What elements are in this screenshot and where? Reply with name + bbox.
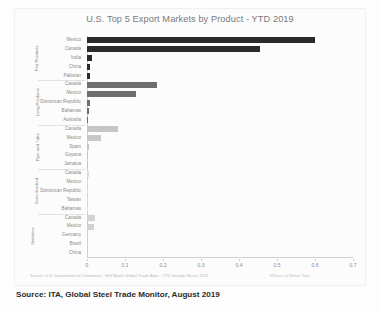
bar [87, 135, 101, 141]
bar [87, 250, 88, 256]
y-tick-label: China [0, 249, 84, 258]
y-tick-label: Brazil [0, 240, 84, 249]
bar [87, 171, 89, 177]
x-tick-mark [87, 259, 88, 261]
x-tick-mark [315, 259, 316, 261]
x-tick-label: 0.1 [122, 262, 129, 268]
y-tick-label: Canada [0, 169, 84, 178]
x-tick-label: 0.2 [160, 262, 167, 268]
y-tick-label: Pakistan [0, 72, 84, 81]
x-tick-mark [201, 259, 202, 261]
bar [87, 179, 88, 185]
bar-row [87, 107, 353, 116]
bar [87, 215, 95, 221]
chart-title: U.S. Top 5 Export Markets by Product - Y… [14, 14, 366, 24]
y-tick-label: Australia [0, 116, 84, 125]
bar [87, 144, 89, 150]
bar-row [87, 134, 353, 143]
bar-row [87, 143, 353, 152]
plot-area [87, 36, 353, 258]
chart-units-note: Millions of Metric Tons [270, 273, 310, 278]
bar-row [87, 36, 353, 45]
bar-row [87, 116, 353, 125]
bar-row [87, 54, 353, 63]
bar-row [87, 89, 353, 98]
y-tick-label: Mexico [0, 178, 84, 187]
figure-caption: Source: ITA, Global Steel Trade Monitor,… [16, 290, 220, 299]
x-tick-label: 0.7 [350, 262, 357, 268]
y-tick-label: Jamaica [0, 160, 84, 169]
x-tick-label: 0.3 [198, 262, 205, 268]
y-tick-label: Canada [0, 214, 84, 223]
x-tick-mark [277, 259, 278, 261]
y-tick-label: Mexico [0, 222, 84, 231]
bar-row [87, 249, 353, 258]
x-tick-mark [239, 259, 240, 261]
x-tick-label: 0.6 [312, 262, 319, 268]
y-tick-label: Bahamas [0, 107, 84, 116]
bar [87, 73, 90, 79]
bar-row [87, 196, 353, 205]
x-tick-mark [125, 259, 126, 261]
bar [87, 206, 88, 212]
x-tick-label: 0.5 [274, 262, 281, 268]
group-separator [38, 214, 85, 215]
bar [87, 55, 92, 61]
group-separator [38, 125, 85, 126]
bar [87, 82, 157, 88]
bar-row [87, 169, 353, 178]
bar-row [87, 222, 353, 231]
bar [87, 188, 88, 194]
y-tick-label: Canada [0, 125, 84, 134]
bar-row [87, 80, 353, 89]
bar [87, 37, 315, 43]
bar-row [87, 178, 353, 187]
x-tick-label: 0 [86, 262, 89, 268]
bar-row [87, 231, 353, 240]
bar [87, 197, 88, 203]
y-tick-label: Taiwan [0, 196, 84, 205]
bar-row [87, 45, 353, 54]
bar [87, 64, 90, 70]
group-separator [38, 169, 85, 170]
x-tick-label: 0.4 [236, 262, 243, 268]
y-tick-label: India [0, 54, 84, 63]
bar-row [87, 151, 353, 160]
bar [87, 108, 89, 114]
group-separator [38, 80, 85, 81]
y-tick-label: Guyana [0, 151, 84, 160]
bar [87, 233, 88, 239]
bar [87, 46, 260, 52]
y-tick-label: Mexico [0, 89, 84, 98]
chart-source-note: Source: U.S. Department of Commerce - IH… [30, 273, 208, 278]
y-tick-label: Spain [0, 143, 84, 152]
y-tick-label: Germany [0, 231, 84, 240]
y-tick-label: Canada [0, 45, 84, 54]
x-axis-ticks: 00.10.20.30.40.50.60.7 [87, 259, 353, 271]
bar-row [87, 160, 353, 169]
y-tick-label: Dominican Republic [0, 98, 84, 107]
bar [87, 117, 88, 123]
bar-row [87, 187, 353, 196]
bar [87, 153, 88, 159]
bar-row [87, 98, 353, 107]
bar-row [87, 205, 353, 214]
x-tick-mark [353, 259, 354, 261]
screenshot-page: U.S. Top 5 Export Markets by Product - Y… [0, 0, 379, 312]
bar [87, 91, 136, 97]
bar-row [87, 240, 353, 249]
y-tick-label: Mexico [0, 36, 84, 45]
y-tick-label: Canada [0, 80, 84, 89]
y-axis-labels: MexicoCanadaIndiaChinaPakistanCanadaMexi… [0, 36, 84, 258]
bar-row [87, 63, 353, 72]
y-tick-label: Dominican Republic [0, 187, 84, 196]
y-tick-label: Mexico [0, 134, 84, 143]
bar [87, 100, 90, 106]
bar-row [87, 214, 353, 223]
bar-rows [87, 36, 353, 258]
bar-row [87, 125, 353, 134]
bar [87, 162, 88, 168]
y-tick-label: China [0, 63, 84, 72]
bar-row [87, 72, 353, 81]
bar [87, 224, 94, 230]
